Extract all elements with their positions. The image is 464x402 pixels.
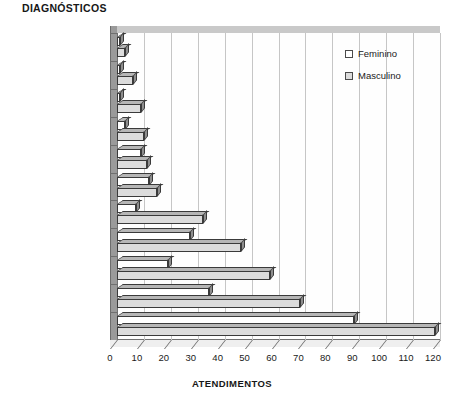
legend-swatch-icon-feminino — [345, 50, 353, 58]
x-axis-title: ATENDIMENTOS — [0, 378, 464, 389]
x-tick-label-90: 90 — [337, 352, 367, 363]
legend-swatch-icon-masculino — [345, 72, 353, 80]
legend-label-masculino: Masculino — [358, 70, 401, 81]
y-tick-7 — [110, 228, 117, 229]
plot-depth-top — [110, 26, 440, 33]
gridline-40 — [225, 33, 226, 340]
gridline-60 — [279, 33, 280, 340]
chart-title: DIAGNÓSTICOS — [22, 2, 107, 14]
y-tick-6 — [110, 200, 117, 201]
x-tick-label-70: 70 — [283, 352, 313, 363]
legend-label-feminino: Feminino — [358, 48, 397, 59]
y-tick-10 — [110, 312, 117, 313]
y-tick-9 — [110, 284, 117, 285]
x-tick-label-110: 110 — [391, 352, 421, 363]
y-tick-0 — [110, 33, 117, 34]
x-tick-label-100: 100 — [364, 352, 394, 363]
y-tick-8 — [110, 256, 117, 257]
y-tick-4 — [110, 145, 117, 146]
x-tick-label-20: 20 — [149, 352, 179, 363]
bar-masculino-2 — [117, 104, 141, 113]
gridline-80 — [332, 33, 333, 340]
x-tick-label-80: 80 — [310, 352, 340, 363]
bar-masculino-4 — [117, 160, 147, 169]
x-tick-label-120: 120 — [418, 352, 448, 363]
gridline-120 — [440, 33, 441, 340]
y-tick-3 — [110, 117, 117, 118]
bar-masculino-0 — [117, 48, 125, 57]
x-tick-label-30: 30 — [176, 352, 206, 363]
x-tick-label-10: 10 — [122, 352, 152, 363]
bar-feminino-0 — [117, 37, 120, 46]
bar-masculino-10 — [117, 327, 435, 336]
bar-masculino-3 — [117, 132, 144, 141]
bar-masculino-1 — [117, 76, 133, 85]
bar-feminino-2 — [117, 93, 120, 102]
bar-chart: DIAGNÓSTICOS 010203040506070809010011012… — [0, 0, 464, 402]
bar-masculino-9 — [117, 299, 300, 308]
plot-depth-left-wall — [110, 26, 117, 340]
y-tick-1 — [110, 61, 117, 62]
legend-item-feminino: Feminino — [345, 48, 401, 59]
gridline-50 — [252, 33, 253, 340]
bar-masculino-5 — [117, 188, 157, 197]
y-tick-5 — [110, 173, 117, 174]
bar-feminino-1 — [117, 65, 120, 74]
x-tick-label-50: 50 — [230, 352, 260, 363]
gridline-70 — [305, 33, 306, 340]
gridline-110 — [413, 33, 414, 340]
x-tick-label-40: 40 — [203, 352, 233, 363]
bar-masculino-6 — [117, 215, 203, 224]
legend-item-masculino: Masculino — [345, 70, 401, 81]
x-tick-label-0: 0 — [95, 352, 125, 363]
legend: Feminino Masculino — [345, 48, 401, 92]
bar-masculino-7 — [117, 243, 241, 252]
y-tick-2 — [110, 89, 117, 90]
x-tick-label-60: 60 — [257, 352, 287, 363]
bar-masculino-8 — [117, 271, 270, 280]
